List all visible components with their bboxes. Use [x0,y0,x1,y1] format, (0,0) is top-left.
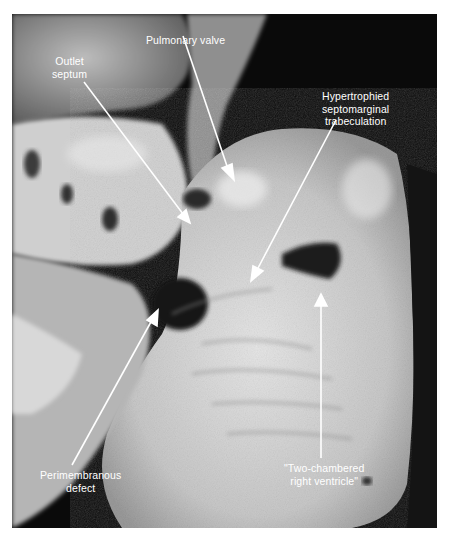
label-two-chambered-rv: "Two-chambered right ventricle" [284,462,364,487]
defect-cavity [152,278,208,330]
label-outlet-septum: Outlet septum [52,55,87,80]
upper-tissue [12,14,191,124]
label-pulmonary-valve: Pulmonary valve [146,34,225,47]
label-perimembranous-defect: Perimembranous defect [40,469,121,494]
label-septomarginal-trabeculation: Hypertrophied septomarginal trabeculatio… [322,90,389,128]
